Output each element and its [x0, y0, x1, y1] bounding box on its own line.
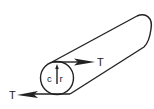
shaft-top-edge [52, 16, 137, 62]
radius-label: r [60, 73, 63, 84]
shaft-diagram: T T c r [0, 0, 154, 109]
shaft-end-cap [137, 15, 151, 47]
shaft-body [41, 15, 152, 95]
shaft-bottom-edge [70, 47, 144, 94]
torque-arrow-bottom [17, 91, 70, 98]
center-label: c [47, 73, 52, 84]
radius-arrow-icon [55, 64, 59, 69]
torque-label-bottom: T [9, 89, 16, 101]
torque-label-top: T [97, 56, 104, 68]
torque-arrow-top [52, 59, 95, 66]
